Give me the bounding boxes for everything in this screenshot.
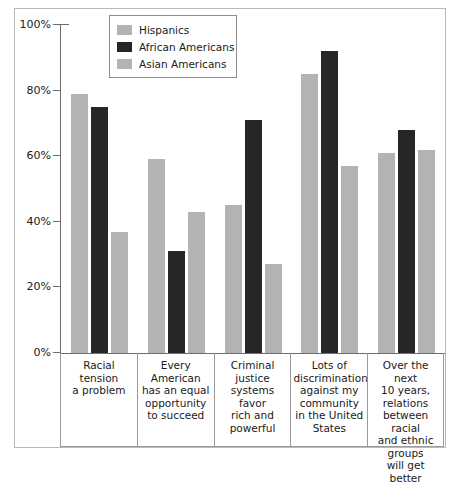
legend-item[interactable]: Hispanics: [117, 21, 230, 38]
y-axis-tick: [53, 155, 61, 156]
legend-label: Asian Americans: [139, 58, 226, 70]
bar: [188, 212, 205, 353]
category-label: Racial tension a problem: [61, 359, 137, 397]
bar: [91, 107, 108, 353]
legend-swatch-hispanics: [117, 25, 132, 35]
y-axis-tick: [53, 24, 61, 25]
legend-item[interactable]: African Americans: [117, 38, 230, 55]
bar: [321, 51, 338, 353]
bar: [378, 153, 395, 353]
bar: [71, 94, 88, 353]
y-axis-label: 40%: [15, 214, 51, 227]
legend-swatch-african-americans: [117, 42, 132, 52]
bar: [341, 166, 358, 353]
y-axis-label: 60%: [15, 149, 51, 162]
category-cell: Racial tension a problem: [60, 353, 137, 447]
y-axis-label: 0%: [15, 346, 51, 359]
legend-label: Hispanics: [139, 24, 189, 36]
category-label: Criminal justice systems favor rich and …: [215, 359, 291, 434]
figure-frame: 0%20%40%60%80%100% Racial tension a prob…: [14, 8, 446, 448]
bar: [398, 130, 415, 353]
category-label: Lots of discrimination against my commun…: [291, 359, 367, 434]
legend-label: African Americans: [139, 41, 234, 53]
y-axis-tick: [53, 221, 61, 222]
category-cell: Over the next 10 years, relations betwee…: [367, 353, 444, 447]
y-axis-label: 100%: [15, 18, 51, 31]
chart-legend: Hispanics African Americans Asian Americ…: [109, 15, 237, 78]
bar: [225, 205, 242, 353]
bar: [168, 251, 185, 353]
category-cell: Every American has an equal opportunity …: [137, 353, 214, 447]
category-label-row: Racial tension a problemEvery American h…: [60, 353, 445, 447]
bar: [111, 232, 128, 353]
y-axis-tick: [53, 90, 61, 91]
bar: [148, 159, 165, 353]
category-label: Every American has an equal opportunity …: [138, 359, 214, 422]
bar: [301, 74, 318, 353]
legend-swatch-asian-americans: [117, 59, 132, 69]
y-axis-label: 80%: [15, 83, 51, 96]
category-label: Over the next 10 years, relations betwee…: [368, 359, 443, 484]
bar: [418, 150, 435, 353]
y-axis-label: 20%: [15, 280, 51, 293]
category-cell: Lots of discrimination against my commun…: [290, 353, 367, 447]
bar: [245, 120, 262, 353]
legend-item[interactable]: Asian Americans: [117, 55, 230, 72]
y-axis-tick: [53, 286, 61, 287]
category-cell: Criminal justice systems favor rich and …: [214, 353, 291, 447]
bar: [265, 264, 282, 353]
